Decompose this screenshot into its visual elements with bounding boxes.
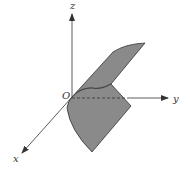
surface-lower [67, 84, 131, 152]
origin-label: O [62, 90, 70, 101]
diagram-canvas: z y x O [0, 0, 190, 173]
x-axis-label: x [13, 153, 19, 164]
y-axis-label: y [172, 93, 179, 104]
z-axis-label: z [69, 0, 76, 11]
x-axis [22, 97, 72, 153]
